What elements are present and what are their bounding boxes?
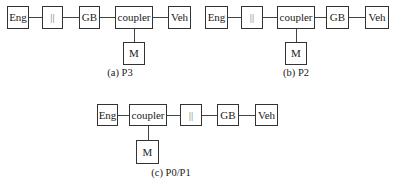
connector xyxy=(63,17,79,18)
gearbox-label: GB xyxy=(82,12,97,23)
connector xyxy=(167,115,180,116)
connector xyxy=(134,29,135,42)
vehicle-label: Veh xyxy=(171,12,188,23)
engine-label: Eng xyxy=(9,12,27,23)
caption-p2: (b) P2 xyxy=(283,67,309,78)
motor-label: M xyxy=(291,48,301,59)
clutch-label: || xyxy=(250,12,254,23)
engine-box: Eng xyxy=(7,6,29,29)
gearbox-box: GB xyxy=(217,104,239,126)
connector xyxy=(202,115,217,116)
clutch-box: || xyxy=(241,6,263,29)
connector xyxy=(118,115,129,116)
caption-p3: (a) P3 xyxy=(107,67,132,78)
connector xyxy=(153,17,168,18)
connector xyxy=(315,17,326,18)
coupler-label: coupler xyxy=(132,110,165,121)
motor-label: M xyxy=(143,147,153,158)
coupler-box: coupler xyxy=(277,6,315,29)
vehicle-label: Veh xyxy=(258,110,275,121)
connector xyxy=(296,29,297,42)
motor-box: M xyxy=(123,42,145,65)
vehicle-box: Veh xyxy=(255,104,278,126)
motor-box: M xyxy=(285,42,307,65)
gearbox-box: GB xyxy=(326,6,349,29)
connector xyxy=(29,17,42,18)
motor-box: M xyxy=(136,140,159,164)
engine-label: Eng xyxy=(208,12,226,23)
clutch-label: || xyxy=(50,12,54,23)
connector xyxy=(263,17,277,18)
connector xyxy=(349,17,365,18)
connector xyxy=(239,115,255,116)
engine-box: Eng xyxy=(97,104,118,126)
coupler-box: coupler xyxy=(129,104,167,126)
hybrid-topology-figure: Eng || GB coupler Veh M (a) P3 Eng || co… xyxy=(0,0,394,184)
clutch-box: || xyxy=(180,104,202,126)
gearbox-label: GB xyxy=(330,12,345,23)
vehicle-label: Veh xyxy=(368,12,385,23)
vehicle-box: Veh xyxy=(168,6,191,29)
connector xyxy=(228,17,241,18)
coupler-box: coupler xyxy=(115,6,153,29)
motor-label: M xyxy=(129,48,139,59)
gearbox-box: GB xyxy=(79,6,100,29)
engine-box: Eng xyxy=(205,6,228,29)
gearbox-label: GB xyxy=(220,110,235,121)
clutch-box: || xyxy=(42,6,63,29)
coupler-label: coupler xyxy=(280,12,313,23)
clutch-label: || xyxy=(189,110,193,121)
connector xyxy=(148,126,149,140)
vehicle-box: Veh xyxy=(365,6,389,29)
engine-label: Eng xyxy=(99,110,117,121)
connector xyxy=(100,17,115,18)
caption-p0-p1: (c) P0/P1 xyxy=(151,167,190,178)
coupler-label: coupler xyxy=(118,12,151,23)
